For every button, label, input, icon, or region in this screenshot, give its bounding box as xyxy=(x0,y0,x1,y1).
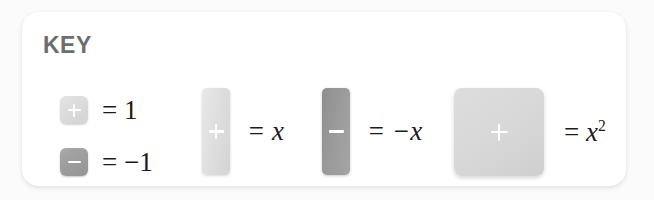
legend-label-x-positive: = x xyxy=(247,118,284,145)
tile-x-negative[interactable] xyxy=(322,88,350,175)
key-card: KEY = 1 = −1 = x xyxy=(22,12,626,186)
plus-icon xyxy=(215,124,218,139)
minus-icon xyxy=(68,161,81,164)
tile-unit-positive[interactable] xyxy=(60,96,88,124)
legend-label-unit-positive: = 1 xyxy=(102,97,137,124)
plus-icon xyxy=(73,104,76,117)
tile-x-positive[interactable] xyxy=(202,88,230,175)
legend-row-x-positive: = x xyxy=(202,88,284,175)
legend-label-unit-negative: = −1 xyxy=(102,149,153,176)
legend-label-x-negative: = −x xyxy=(367,118,422,145)
legend-row-x-negative: = −x xyxy=(322,88,422,175)
equals-sign: = xyxy=(564,117,579,147)
legend-row-x-squared: = x2 xyxy=(454,88,606,176)
plus-icon xyxy=(498,124,501,141)
legend-row-unit-negative: = −1 xyxy=(60,148,153,176)
legend-label-x-squared: = x2 xyxy=(564,119,606,146)
tile-unit-negative[interactable] xyxy=(60,148,88,176)
variable-x: x xyxy=(586,117,598,147)
exponent-two: 2 xyxy=(598,117,606,134)
minus-icon xyxy=(329,130,344,133)
tile-x-squared[interactable] xyxy=(454,88,544,176)
key-title: KEY xyxy=(43,34,92,57)
screenshot-stage: KEY = 1 = −1 = x xyxy=(0,0,654,200)
legend-row-unit-positive: = 1 xyxy=(60,96,137,124)
